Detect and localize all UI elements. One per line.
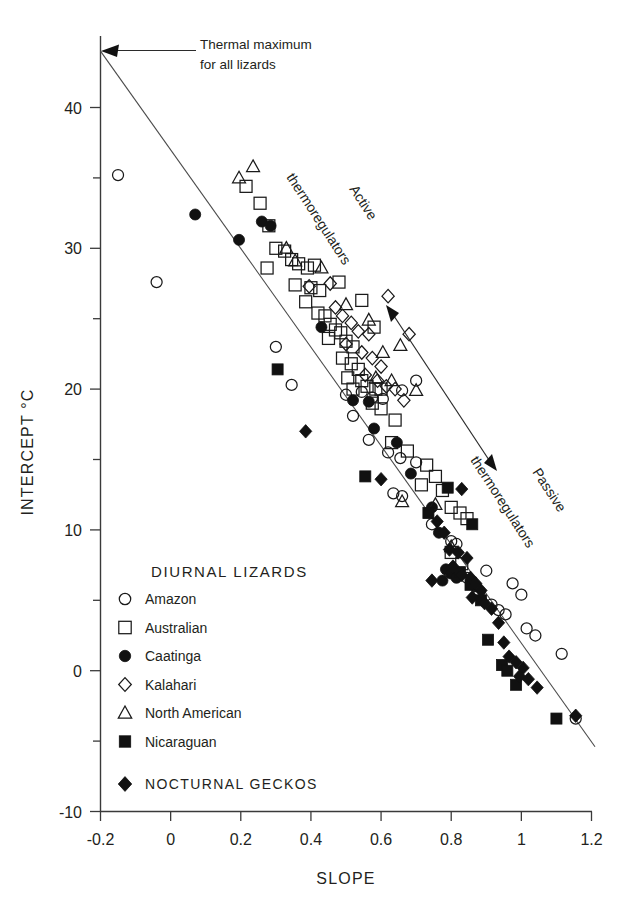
- marker-square-open: [300, 296, 312, 308]
- legend-label-caatinga: Caatinga: [145, 648, 201, 664]
- figure-scatter-slope-vs-intercept: 403020100-10 -0.200.20.40.60.811.2 Therm…: [0, 0, 626, 920]
- marker-triangle-open: [376, 346, 389, 358]
- marker-diamond-open: [382, 289, 394, 302]
- marker-diamond-filled: [498, 636, 510, 649]
- thermal-maximum-line1: Thermal maximum: [200, 37, 312, 52]
- marker-diamond-open: [363, 327, 375, 340]
- marker-square-open: [254, 197, 266, 209]
- marker-diamond-filled: [456, 482, 468, 495]
- marker-circle-filled: [316, 322, 327, 333]
- marker-square-open: [356, 294, 368, 306]
- x-tick-label: 1: [517, 831, 526, 848]
- marker-circle-open: [363, 434, 374, 445]
- y-tick-label: 10: [64, 522, 82, 539]
- marker-square-open: [415, 479, 427, 491]
- marker-square-open: [421, 459, 433, 471]
- marker-triangle-open: [362, 313, 375, 325]
- y-tick-label: 40: [64, 100, 82, 117]
- marker-square-open: [389, 414, 401, 426]
- marker-circle-open: [151, 277, 162, 288]
- marker-square-open: [429, 470, 441, 482]
- marker-diamond-filled: [426, 574, 438, 587]
- marker-triangle-open: [410, 384, 423, 396]
- gradient-double-arrow: [386, 305, 497, 471]
- x-tick-label: 0: [166, 831, 175, 848]
- legend-label-kalahari: Kalahari: [145, 677, 196, 693]
- marker-square-open: [261, 262, 273, 274]
- marker-circle-open: [113, 170, 124, 181]
- y-tick-label: 0: [73, 663, 82, 680]
- marker-square-open: [319, 310, 331, 322]
- active-thermoregulators-line1: Active: [346, 182, 380, 223]
- marker-square-filled: [360, 471, 371, 482]
- legend-marker-amazon: [119, 593, 130, 604]
- marker-square-filled: [483, 634, 494, 645]
- marker-square-open: [401, 445, 413, 457]
- legend-marker-nocturnal-geckos: [118, 777, 131, 792]
- y-axis-title: INTERCEPT °C: [19, 388, 36, 515]
- data-points-layer: [113, 160, 582, 724]
- marker-square-filled: [423, 507, 434, 518]
- marker-diamond-open: [375, 360, 387, 373]
- active-thermoregulators-annotation: Active thermoregulators: [283, 170, 380, 267]
- marker-circle-filled: [347, 395, 358, 406]
- marker-triangle-open: [233, 171, 246, 183]
- marker-square-filled: [442, 482, 453, 493]
- marker-square-open: [301, 262, 313, 274]
- marker-square-open: [312, 307, 324, 319]
- legend: DIURNAL LIZARDS AmazonAustralianCaatinga…: [118, 563, 318, 792]
- marker-circle-filled: [265, 220, 276, 231]
- x-tick-label: 0.8: [440, 831, 462, 848]
- legend-label-north-american: North American: [145, 705, 241, 721]
- legend-label-nocturnal-geckos: NOCTURNAL GECKOS: [145, 776, 318, 792]
- y-tick-label: 20: [64, 381, 82, 398]
- thermal-maximum-annotation: Thermal maximum for all lizards: [101, 37, 312, 72]
- legend-marker-australian: [119, 621, 131, 633]
- x-tick-label: 1.2: [580, 831, 602, 848]
- marker-circle-filled: [391, 437, 402, 448]
- x-axis-title: SLOPE: [316, 870, 375, 887]
- marker-circle-open: [270, 341, 281, 352]
- x-tick-label: 0.2: [230, 831, 252, 848]
- marker-square-open: [240, 180, 252, 192]
- marker-diamond-filled: [570, 709, 582, 722]
- legend-marker-kalahari: [119, 678, 132, 692]
- legend-label-amazon: Amazon: [145, 591, 196, 607]
- y-tick-label: -10: [59, 804, 82, 821]
- marker-circle-open: [286, 379, 297, 390]
- y-tick-label: 30: [64, 240, 82, 257]
- passive-thermoregulators-line2: thermoregulators: [467, 453, 538, 550]
- x-axis-ticks: [101, 812, 592, 822]
- marker-circle-filled: [190, 209, 201, 220]
- marker-circle-filled: [369, 423, 380, 434]
- legend-marker-nicaraguan: [119, 736, 130, 747]
- gradient-arrow-head-upper: [386, 305, 399, 322]
- marker-diamond-filled: [492, 616, 504, 629]
- legend-marker-caatinga: [119, 650, 130, 661]
- legend-title: DIURNAL LIZARDS: [151, 563, 308, 580]
- marker-triangle-open: [394, 339, 407, 351]
- marker-circle-filled: [363, 396, 374, 407]
- marker-square-filled: [272, 364, 283, 375]
- axes: [101, 36, 593, 812]
- marker-square-filled: [502, 665, 513, 676]
- marker-square-filled: [467, 519, 478, 530]
- marker-circle-open: [530, 630, 541, 641]
- marker-triangle-open: [247, 160, 260, 172]
- marker-circle-open: [516, 589, 527, 600]
- marker-diamond-open: [366, 351, 378, 364]
- marker-circle-filled: [405, 468, 416, 479]
- x-tick-label: -0.2: [87, 831, 115, 848]
- marker-square-open: [289, 279, 301, 291]
- marker-circle-open: [556, 648, 567, 659]
- y-axis-ticks: [90, 108, 101, 812]
- legend-marker-north-american: [118, 706, 131, 718]
- marker-circle-open: [481, 565, 492, 576]
- passive-thermoregulators-annotation: Passive thermoregulators: [467, 453, 569, 550]
- marker-circle-open: [395, 453, 406, 464]
- marker-diamond-filled: [531, 681, 543, 694]
- scatter-plot-canvas: 403020100-10 -0.200.20.40.60.811.2 Therm…: [0, 0, 626, 920]
- marker-diamond-filled: [300, 425, 312, 438]
- series-caatinga: [190, 209, 462, 586]
- marker-square-filled: [551, 713, 562, 724]
